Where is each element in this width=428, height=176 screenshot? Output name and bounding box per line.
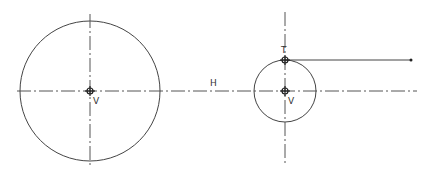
right-center-label: V	[288, 96, 295, 106]
right-center-point-icon	[280, 86, 290, 96]
top-point-icon	[280, 55, 290, 65]
left-center-label: V	[93, 96, 100, 106]
projection-diagram: V H V T	[0, 0, 428, 176]
left-center-point-icon	[85, 86, 95, 96]
horizontal-axis-label: H	[210, 78, 217, 88]
top-point-label: T	[280, 45, 287, 55]
tangent-end-point-icon	[410, 59, 413, 62]
